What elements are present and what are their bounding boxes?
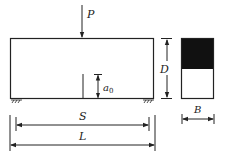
load-label: P (86, 8, 95, 21)
crack-depth-label: a0 (103, 82, 113, 95)
span-label: S (79, 110, 87, 123)
right-support-icon (143, 100, 154, 103)
length-label: L (78, 130, 86, 143)
width-dimension (182, 114, 214, 124)
left-support-icon (11, 100, 22, 103)
beam (11, 39, 154, 99)
beam-diagram: P a0 D B (0, 0, 226, 158)
cross-section (181, 38, 214, 99)
width-label: B (193, 104, 201, 115)
depth-label: D (159, 63, 169, 76)
crack-depth-dimension (94, 75, 102, 98)
